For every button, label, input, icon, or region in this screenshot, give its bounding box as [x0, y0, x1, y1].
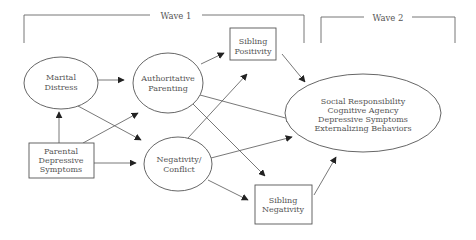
- negativity-conflict-label-line2: Conflict: [163, 165, 195, 174]
- node-marital-distress: Marital Distress: [24, 57, 98, 109]
- wave2-bracket: Wave 2: [321, 13, 455, 43]
- arrow-sibling-negativity-to-outcomes: [314, 157, 336, 195]
- parental-depressive-label-line1: Parental: [44, 147, 78, 156]
- sibling-negativity-label-line2: Negativity: [262, 205, 305, 214]
- negativity-conflict-ellipse: [144, 137, 212, 191]
- authoritative-parenting-ellipse: [133, 53, 203, 113]
- node-sibling-negativity: Sibling Negativity: [255, 185, 312, 224]
- authoritative-parenting-label-line2: Parenting: [148, 84, 188, 93]
- negativity-conflict-label-line1: Negativity/: [157, 155, 202, 164]
- wave1-label: Wave 1: [160, 11, 191, 21]
- arrow-sibling-positivity-to-outcomes: [282, 54, 305, 82]
- sibling-negativity-label-line1: Sibling: [269, 196, 298, 205]
- node-sibling-positivity: Sibling Positivity: [230, 28, 276, 60]
- outcome-social-responsibility: Social Responsibility: [321, 97, 406, 106]
- parental-depressive-label-line2: Depressive: [39, 156, 84, 165]
- arrow-authoritative-parenting-to-sibling-positivity: [201, 53, 224, 64]
- outcome-externalizing-behaviors: Externalizing Behaviors: [314, 124, 411, 133]
- node-parental-depressive-symptoms: Parental Depressive Symptoms: [29, 143, 94, 178]
- node-outcomes: Social Responsibility Cognitive Agency D…: [285, 74, 441, 152]
- authoritative-parenting-label-line1: Authoritative: [140, 74, 195, 83]
- arrow-parental-depressive-to-authoritative-parenting: [83, 113, 138, 143]
- outcome-cognitive-agency: Cognitive Agency: [327, 106, 399, 115]
- node-negativity-conflict: Negativity/ Conflict: [144, 137, 212, 191]
- arrow-negativity-conflict-to-sibling-negativity: [208, 180, 248, 200]
- node-authoritative-parenting: Authoritative Parenting: [133, 53, 203, 113]
- sibling-positivity-label-line2: Positivity: [234, 47, 272, 56]
- arrow-negativity-conflict-to-outcomes: [211, 137, 292, 158]
- path-model-diagram: Wave 1 Wave 2 Marital Distress Parental …: [0, 0, 476, 240]
- wave2-label: Wave 2: [372, 13, 403, 23]
- parental-depressive-label-line3: Symptoms: [40, 165, 82, 174]
- marital-distress-label-line1: Marital: [46, 73, 76, 82]
- arrow-marital-distress-to-negativity-conflict: [78, 106, 141, 140]
- sibling-positivity-label-line1: Sibling: [239, 37, 268, 46]
- outcome-depressive-symptoms: Depressive Symptoms: [318, 115, 408, 124]
- arrow-authoritative-parenting-to-outcomes: [200, 95, 293, 120]
- marital-distress-label-line2: Distress: [44, 83, 77, 92]
